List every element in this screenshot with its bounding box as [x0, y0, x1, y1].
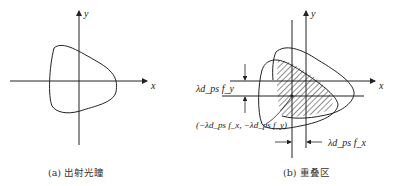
panel-b: λd_ps f_y λd_ps f_x (−λd_ps f_x, −λd_ps … [195, 8, 384, 178]
panel-a: y x (a) 出射光瞳 [10, 8, 156, 178]
exit-pupil-shape [50, 45, 117, 112]
figure: y x (a) 出射光瞳 λd_ps f_y λd_ps f_x (−λd_ps… [0, 0, 393, 186]
overlap-region [277, 60, 333, 117]
label-fx-offset: λd_ps f_x [327, 137, 367, 148]
label-shift-point: (−λd_ps f_x, −λd_ps f_y) [196, 120, 287, 130]
label-fy-offset: λd_ps f_y [195, 83, 235, 94]
x-axis-label: x [150, 80, 156, 91]
x-axis-label: x [378, 80, 384, 91]
caption-a: (a) 出射光瞳 [48, 167, 104, 178]
y-axis-label: y [310, 8, 316, 19]
caption-b: (b) 重叠区 [283, 167, 330, 178]
y-axis-label: y [83, 8, 89, 19]
